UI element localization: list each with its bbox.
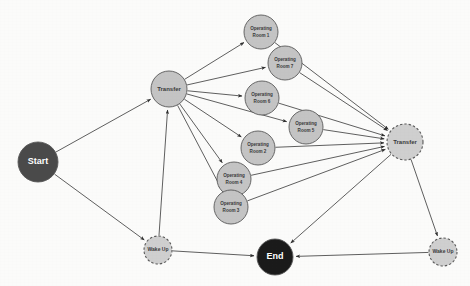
edge-wakeup_left-to-transfer_in: [159, 110, 168, 236]
node-shape-transfer_in[interactable]: [151, 71, 187, 107]
edge-transfer_in-to-or3: [178, 105, 222, 189]
node-shape-or2[interactable]: [241, 131, 275, 165]
node-shape-or6[interactable]: [245, 81, 279, 115]
edge-transfer_out-to-end: [291, 154, 391, 243]
nodes-layer: StartTransferOperatingRoom 1OperatingRoo…: [18, 15, 457, 275]
node-or1[interactable]: OperatingRoom 1: [244, 15, 278, 49]
node-end[interactable]: End: [257, 239, 293, 275]
edge-transfer_in-to-or2: [184, 99, 241, 137]
node-transfer_in[interactable]: Transfer: [151, 71, 187, 107]
node-or2[interactable]: OperatingRoom 2: [241, 131, 275, 165]
node-or7[interactable]: OperatingRoom 7: [268, 46, 302, 80]
node-shape-end[interactable]: [257, 239, 293, 275]
edge-transfer_out-to-wakeup_right: [411, 159, 437, 235]
node-transfer_out[interactable]: Transfer: [387, 124, 423, 160]
node-shape-or3[interactable]: [214, 190, 248, 224]
node-shape-transfer_out[interactable]: [387, 124, 423, 160]
diagram-canvas: StartTransferOperatingRoom 1OperatingRoo…: [0, 0, 470, 286]
node-shape-or7[interactable]: [268, 46, 302, 80]
edge-or2-to-transfer_out: [275, 143, 384, 147]
edge-or5-to-transfer_out: [323, 130, 384, 139]
node-or5[interactable]: OperatingRoom 5: [289, 110, 323, 144]
edge-start-to-wakeup_left: [55, 174, 145, 240]
node-shape-start[interactable]: [18, 142, 58, 182]
edge-transfer_in-to-or4: [180, 104, 222, 163]
edge-wakeup_right-to-end: [296, 252, 429, 256]
node-wakeup_left[interactable]: Wake Up: [144, 236, 172, 264]
node-or6[interactable]: OperatingRoom 6: [245, 81, 279, 115]
node-or3[interactable]: OperatingRoom 3: [214, 190, 248, 224]
node-shape-or1[interactable]: [244, 15, 278, 49]
edge-transfer_in-to-or6: [187, 91, 242, 96]
graph-svg: StartTransferOperatingRoom 1OperatingRoo…: [0, 0, 470, 286]
edge-wakeup_left-to-end: [172, 251, 254, 256]
node-shape-wakeup_left[interactable]: [144, 236, 172, 264]
edge-start-to-transfer_in: [56, 99, 151, 152]
node-start[interactable]: Start: [18, 142, 58, 182]
node-wakeup_right[interactable]: Wake Up: [429, 238, 457, 266]
node-shape-wakeup_right[interactable]: [429, 238, 457, 266]
node-shape-or5[interactable]: [289, 110, 323, 144]
